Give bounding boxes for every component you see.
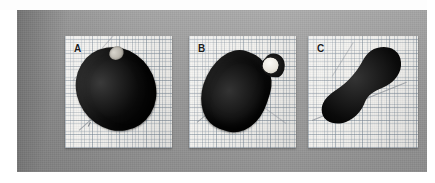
panel-label-c: C (317, 44, 325, 54)
panel-a: A (65, 36, 172, 148)
panel-label-b: B (198, 44, 206, 54)
scan-margin-left (0, 0, 17, 183)
scan-margin-right (427, 0, 435, 183)
scan-margin-bottom (0, 172, 435, 183)
specimen-c (318, 42, 404, 136)
axis-tick-a (88, 122, 91, 127)
panel-b: B (189, 36, 296, 148)
specimen-b (192, 42, 280, 140)
scan-margin-top (0, 0, 435, 10)
panel-c: C (308, 36, 418, 148)
scanned-photograph: A B C (17, 10, 427, 172)
figure-plate: A B C (0, 0, 435, 183)
highlight-spot-a (107, 43, 127, 62)
panel-label-a: A (74, 44, 82, 54)
